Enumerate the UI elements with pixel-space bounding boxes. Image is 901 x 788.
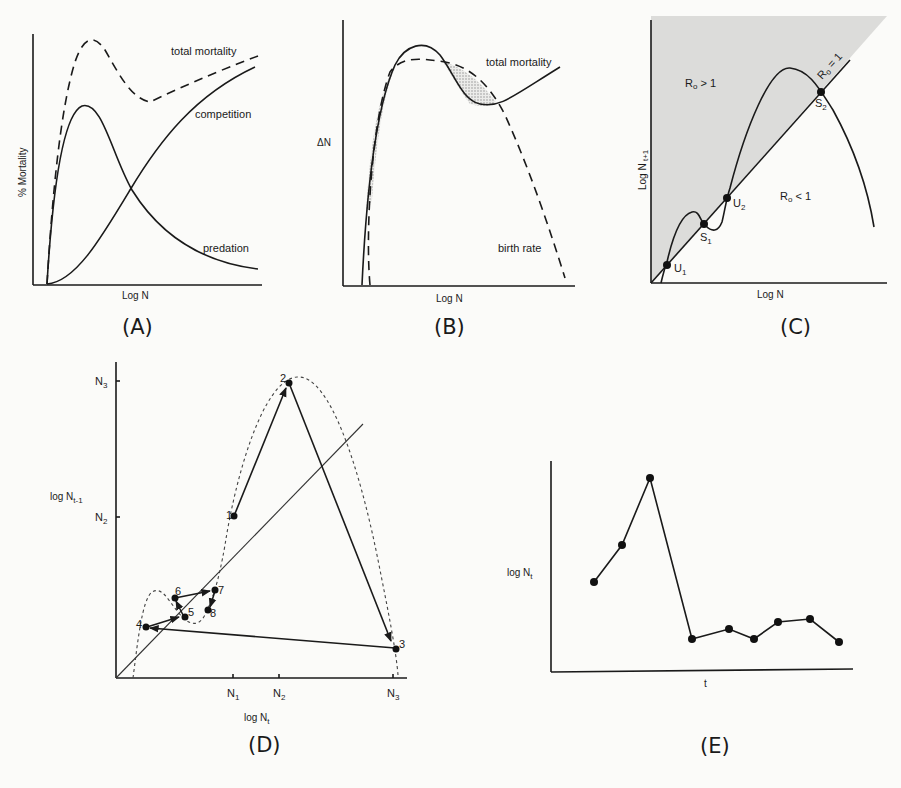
panel-e-letter: (E) [700, 734, 730, 758]
panel-b-letter: (B) [434, 315, 465, 339]
panel-d-label-4: 4 [136, 618, 142, 630]
panel-c-point-u1 [663, 261, 671, 269]
panel-a-letter: (A) [122, 315, 153, 339]
panel-d-letter: (D) [248, 733, 281, 757]
panel-a-total-mortality-label: total mortality [171, 45, 237, 57]
panel-c-label-ro-greater: Ro > 1 [685, 77, 716, 91]
panel-e-y-axis-label: log Nt [507, 567, 533, 581]
panel-c-point-u2 [723, 194, 731, 202]
panel-c-label-ro-less: Ro < 1 [780, 190, 811, 204]
panel-c-label-u1: U1 [674, 262, 687, 277]
panel-e-point [750, 635, 758, 643]
panel-d-label-5: 5 [188, 606, 194, 618]
panel-d-label-7: 7 [218, 584, 224, 596]
panel-e-series-line [594, 478, 839, 642]
panel-d-xtick-label-n3: N3 [387, 687, 400, 702]
panel-c-point-s1 [700, 220, 708, 228]
panel-a-predation-label: predation [203, 242, 249, 254]
panel-a-x-axis-label: Log N [122, 290, 149, 301]
panel-d: 1 2 3 4 5 6 7 8 N1 N2 N3 N3 N2 log Nt-1 … [50, 362, 407, 757]
panel-d-arrow-1-2 [234, 388, 286, 516]
panel-e-x-axis [551, 669, 853, 672]
panel-d-xtick-label-n2: N2 [273, 687, 286, 702]
panel-e-point [618, 541, 626, 549]
panel-a: total mortality competition predation % … [17, 34, 262, 339]
panel-e-point [590, 578, 598, 586]
panel-a-competition-label: competition [195, 108, 251, 120]
panel-d-x-axis-label: log Nt [244, 712, 270, 726]
panel-e-point [688, 635, 696, 643]
panel-e-point [806, 615, 814, 623]
panel-c: U1 S1 U2 S2 Ro > 1 Ro < 1 Ro = 1 Log N t… [637, 16, 887, 339]
panel-d-ytick-label-n3: N3 [95, 375, 108, 390]
panel-e: log Nt t (E) [507, 461, 853, 758]
panel-d-label-1: 1 [226, 509, 232, 521]
panel-d-ytick-label-n2: N2 [95, 511, 108, 526]
panel-d-arrow-4-5 [147, 617, 179, 627]
figure-canvas: total mortality competition predation % … [0, 0, 901, 788]
panel-c-y-axis-label: Log N t+1 [637, 149, 650, 190]
panel-b-x-axis-label: Log N [436, 293, 463, 304]
panel-e-point [646, 474, 654, 482]
panel-c-letter: (C) [780, 315, 811, 339]
panel-b: total mortality birth rate ΔN Log N (B) [317, 20, 575, 339]
panel-e-x-axis-label: t [704, 678, 707, 689]
panel-e-point [835, 638, 843, 646]
panel-d-label-2: 2 [280, 372, 286, 384]
panel-d-arrow-3-4 [150, 628, 395, 648]
panel-d-label-8: 8 [210, 607, 216, 619]
panel-d-point-4 [143, 624, 150, 631]
panel-a-predation-curve [47, 106, 258, 284]
panel-b-birth-rate-label: birth rate [498, 242, 541, 254]
panel-e-point [774, 618, 782, 626]
panel-d-label-6: 6 [175, 585, 181, 597]
panel-b-total-mortality-label: total mortality [486, 56, 552, 68]
panel-d-reproduction-curve [133, 377, 398, 678]
panel-c-point-s2 [817, 88, 825, 96]
panel-d-y-axis-label: log Nt-1 [50, 491, 83, 505]
panel-d-label-3: 3 [399, 638, 405, 650]
panel-e-point [725, 625, 733, 633]
panel-d-point-2 [286, 380, 293, 387]
panel-d-arrow-2-3 [289, 383, 391, 641]
panel-a-y-axis-label: % Mortality [17, 148, 28, 197]
panel-c-label-s1: S1 [700, 231, 712, 246]
panel-b-y-axis-label: ΔN [317, 137, 331, 148]
panel-d-xtick-label-n1: N1 [227, 687, 240, 702]
panel-c-x-axis-label: Log N [757, 289, 784, 300]
panel-d-diagonal-line [116, 424, 363, 678]
panel-c-label-u2: U2 [733, 197, 746, 212]
